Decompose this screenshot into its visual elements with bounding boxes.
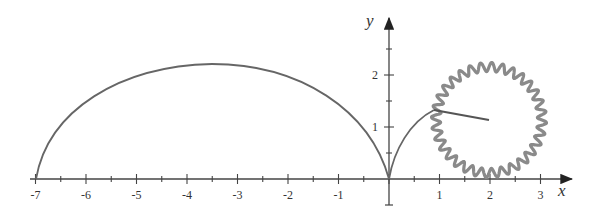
y-tick-label: 2 xyxy=(372,68,378,82)
y-axis-label: y xyxy=(364,11,374,30)
x-tick-label: -2 xyxy=(283,188,293,202)
x-tick-label: 2 xyxy=(487,188,493,202)
x-axis-label: x xyxy=(557,181,566,200)
x-tick-label: 3 xyxy=(538,188,544,202)
y-tick-label: 1 xyxy=(372,120,378,134)
x-tick-label: -1 xyxy=(334,188,344,202)
x-tick-label: 1 xyxy=(437,188,443,202)
x-tick-label: -4 xyxy=(182,188,192,202)
radius-arm xyxy=(434,110,489,120)
x-axis: -7-6-5-4-3-2-1123 xyxy=(30,174,572,202)
x-tick-label: -3 xyxy=(233,188,243,202)
y-axis: 12 xyxy=(372,18,394,205)
x-tick-label: -5 xyxy=(132,188,142,202)
arch-curve xyxy=(36,64,389,179)
rising-curve xyxy=(389,110,434,179)
diagram-canvas: -7-6-5-4-3-2-1123 12 x y xyxy=(0,0,604,212)
x-tick-label: -7 xyxy=(31,188,41,202)
x-tick-label: -6 xyxy=(81,188,91,202)
